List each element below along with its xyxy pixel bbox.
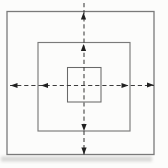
diagram-canvas <box>0 0 168 168</box>
expansion-diagram <box>0 0 168 168</box>
scan-shadow-bottom <box>1 157 152 162</box>
